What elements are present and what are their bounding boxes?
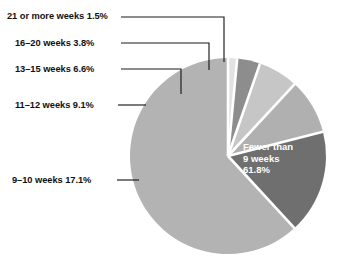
callout-label-13-15-weeks: 13–15 weeks 6.6% [15,65,94,74]
inner-label-fewer-than-9-weeks: Fewer than 9 weeks 61.8% [243,141,293,176]
inner-label-line-3: 61.8% [243,164,293,176]
callout-label-9-10-weeks: 9–10 weeks 17.1% [12,176,91,185]
inner-label-line-1: Fewer than [243,141,293,153]
callout-label-11-12-weeks: 11–12 weeks 9.1% [15,101,94,110]
pie-chart: 21 or more weeks 1.5% 16–20 weeks 3.8% 1… [0,0,341,272]
inner-label-line-2: 9 weeks [243,153,293,165]
callout-label-21-or-more-weeks: 21 or more weeks 1.5% [7,12,108,21]
callout-label-16-20-weeks: 16–20 weeks 3.8% [15,39,94,48]
